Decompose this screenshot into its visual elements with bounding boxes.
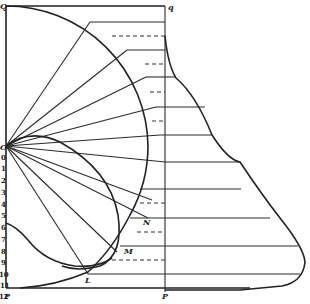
- label-Q: Q: [0, 1, 7, 11]
- dashed-lines: [112, 36, 165, 260]
- label-O: O: [0, 142, 7, 152]
- svg-text:1: 1: [1, 164, 6, 173]
- projection-lines: [88, 22, 300, 274]
- svg-text:4: 4: [1, 200, 6, 209]
- label-q: q: [168, 2, 174, 12]
- svg-text:3: 3: [1, 188, 6, 197]
- radial-lines: [6, 22, 165, 274]
- label-p-right: P: [161, 291, 169, 301]
- label-M: M: [123, 246, 134, 256]
- svg-text:10: 10: [0, 270, 9, 279]
- svg-text:0: 0: [1, 153, 6, 162]
- svg-text:11: 11: [0, 281, 10, 290]
- svg-text:7: 7: [1, 235, 6, 244]
- svg-text:12: 12: [0, 292, 9, 301]
- axis-ticks: 0 1 2 3 4 5 6 7 8 9 10 11 12: [0, 153, 10, 301]
- candlepower-curve: [165, 36, 305, 290]
- axis-title: Candelas: [0, 198, 1, 250]
- label-N: N: [142, 217, 151, 227]
- svg-text:2: 2: [1, 176, 6, 185]
- svg-text:5: 5: [1, 211, 6, 220]
- svg-text:8: 8: [1, 247, 6, 256]
- photometric-diagram: Q q O P P L M N 0 1 2 3 4 5 6 7 8 9 10 1…: [0, 0, 310, 304]
- svg-text:6: 6: [1, 223, 6, 232]
- svg-text:9: 9: [1, 258, 6, 267]
- label-L: L: [84, 275, 91, 285]
